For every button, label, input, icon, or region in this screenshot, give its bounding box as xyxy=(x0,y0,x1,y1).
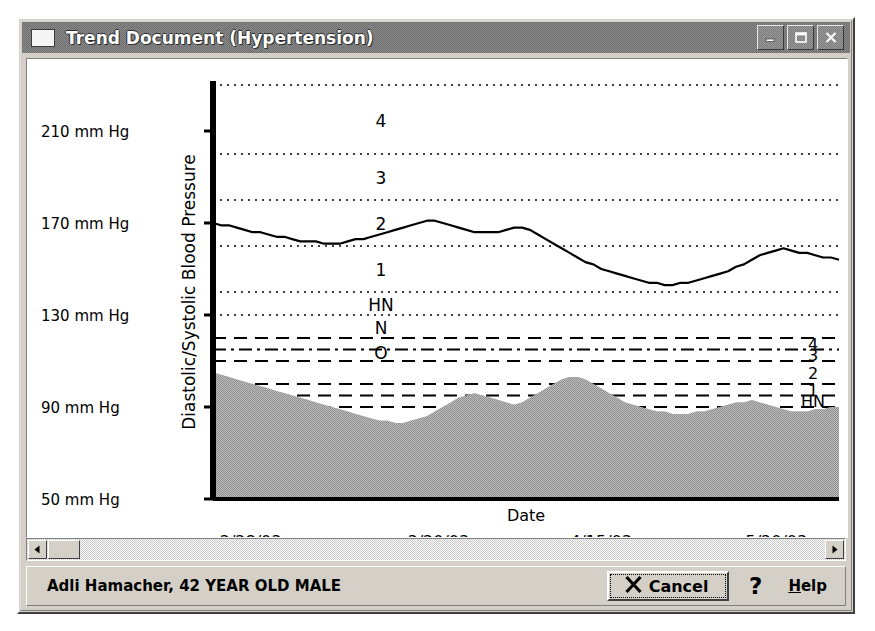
help-link-rest: elp xyxy=(801,577,827,595)
svg-text:210 mm Hg: 210 mm Hg xyxy=(41,123,129,141)
svg-text:2: 2 xyxy=(808,364,818,383)
svg-text:4: 4 xyxy=(376,111,387,131)
svg-text:90 mm Hg: 90 mm Hg xyxy=(41,399,120,417)
statusbar-actions: Cancel ? Help xyxy=(607,571,827,601)
horizontal-scrollbar[interactable] xyxy=(26,538,846,561)
svg-text:2: 2 xyxy=(376,214,387,234)
chart-area: 4321HNNO4321HNNO210 mm Hg170 mm Hg130 mm… xyxy=(26,58,848,538)
svg-text:HN: HN xyxy=(801,392,825,411)
svg-text:50 mm Hg: 50 mm Hg xyxy=(41,491,120,509)
svg-text:HN: HN xyxy=(368,295,394,315)
titlebar: Trend Document (Hypertension) xyxy=(22,22,850,53)
svg-text:N: N xyxy=(375,318,388,338)
svg-text:170 mm Hg: 170 mm Hg xyxy=(41,215,129,233)
close-icon[interactable] xyxy=(817,25,844,50)
arrow-left-icon[interactable] xyxy=(28,540,47,559)
help-link[interactable]: Help xyxy=(788,577,827,595)
window-controls xyxy=(757,25,844,50)
svg-text:3: 3 xyxy=(376,168,387,188)
svg-text:3: 3 xyxy=(808,346,818,365)
window-title: Trend Document (Hypertension) xyxy=(66,28,374,48)
svg-text:5/20/03: 5/20/03 xyxy=(746,532,808,537)
question-mark-icon[interactable]: ? xyxy=(749,575,762,598)
svg-text:O: O xyxy=(374,343,387,363)
svg-text:1: 1 xyxy=(376,260,387,280)
patient-info-label: Adli Hamacher, 42 YEAR OLD MALE xyxy=(47,577,341,595)
scrollbar-thumb[interactable] xyxy=(48,540,80,559)
svg-text:4/15/03: 4/15/03 xyxy=(570,532,632,537)
document-icon xyxy=(31,29,55,47)
minimize-icon[interactable] xyxy=(757,25,784,50)
cancel-button[interactable]: Cancel xyxy=(607,571,729,601)
svg-text:130 mm Hg: 130 mm Hg xyxy=(41,307,129,325)
svg-text:3/20/03: 3/20/03 xyxy=(408,532,470,537)
blood-pressure-trend-chart: 4321HNNO4321HNNO210 mm Hg170 mm Hg130 mm… xyxy=(27,59,847,537)
svg-text:2/28/03: 2/28/03 xyxy=(220,532,282,537)
svg-text:Diastolic/Systolic Blood Press: Diastolic/Systolic Blood Pressure xyxy=(179,154,199,430)
screenshot-root: Trend Document (Hypertension) 4321HNNO43… xyxy=(0,0,875,631)
arrow-right-icon[interactable] xyxy=(825,540,844,559)
trend-document-window: Trend Document (Hypertension) 4321HNNO43… xyxy=(17,17,855,614)
cancel-button-label: Cancel xyxy=(649,577,715,596)
maximize-icon[interactable] xyxy=(787,25,814,50)
statusbar: Adli Hamacher, 42 YEAR OLD MALE Cancel ?… xyxy=(26,566,846,606)
help-link-mnemonic: H xyxy=(788,577,801,595)
svg-text:Date: Date xyxy=(507,506,545,525)
x-icon xyxy=(624,575,643,598)
